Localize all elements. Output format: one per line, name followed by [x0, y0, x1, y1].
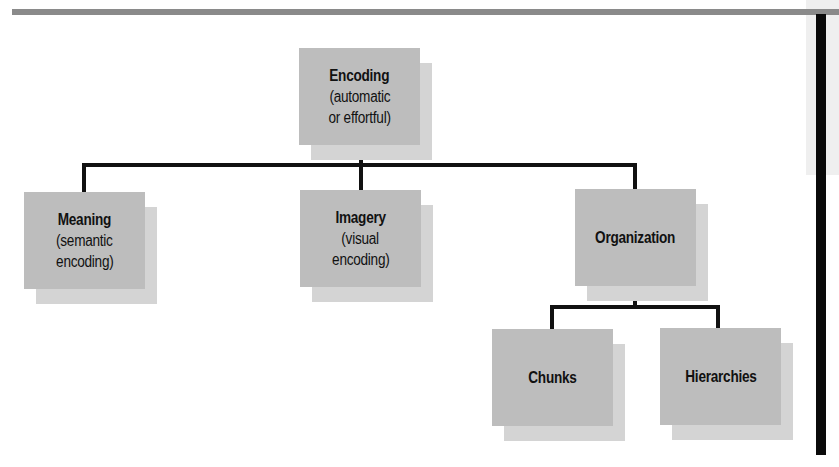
node-box: Imagery (visual encoding): [300, 190, 421, 287]
connector-to-hierarchies: [716, 305, 720, 328]
connector-to-imagery: [359, 163, 363, 190]
node-title: Hierarchies: [685, 366, 756, 387]
node-organization: Organization: [575, 189, 696, 286]
node-box: Encoding (automatic or effortful): [299, 48, 420, 145]
top-rule: [12, 9, 839, 15]
node-box: Organization: [575, 189, 696, 286]
node-title: Chunks: [528, 367, 576, 388]
node-imagery: Imagery (visual encoding): [300, 190, 421, 287]
node-chunks: Chunks: [492, 329, 613, 426]
node-subtitle: or effortful): [328, 107, 390, 128]
right-rule: [816, 14, 826, 455]
node-subtitle: (semantic: [56, 230, 113, 251]
node-title: Organization: [595, 227, 675, 248]
node-title: Encoding: [330, 65, 390, 86]
node-subtitle: encoding): [332, 249, 389, 270]
node-box: Chunks: [492, 329, 613, 426]
node-hierarchies: Hierarchies: [660, 328, 781, 425]
node-title: Meaning: [58, 209, 111, 230]
node-subtitle: (automatic: [329, 86, 390, 107]
node-subtitle: (visual: [342, 228, 380, 249]
connector-to-chunks: [550, 305, 554, 329]
node-box: Hierarchies: [660, 328, 781, 425]
node-meaning: Meaning (semantic encoding): [24, 192, 145, 289]
node-encoding: Encoding (automatic or effortful): [299, 48, 420, 145]
connector-level2-horizontal: [550, 305, 720, 309]
node-box: Meaning (semantic encoding): [24, 192, 145, 289]
node-subtitle: encoding): [56, 251, 113, 272]
connector-to-organization: [633, 163, 637, 189]
node-title: Imagery: [335, 207, 385, 228]
connector-to-meaning: [82, 163, 86, 192]
